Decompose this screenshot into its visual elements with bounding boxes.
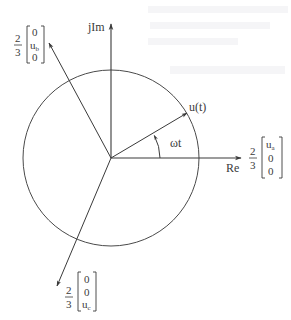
imaginary-axis-label: jIm: [87, 20, 105, 34]
fraction-numerator: 2: [66, 284, 72, 296]
vector-a-label: 2 3 ua 0 0: [249, 137, 282, 178]
fraction-numerator: 2: [250, 145, 256, 157]
angle-arc: [154, 136, 160, 159]
fraction-denominator: 3: [250, 159, 256, 171]
left-bracket: [78, 272, 81, 311]
svg-text:0: 0: [84, 273, 90, 285]
real-axis-label: Re: [226, 161, 239, 175]
angle-label: ωt: [170, 136, 182, 150]
fraction-denominator: 3: [66, 298, 72, 310]
page-bleed-through: [148, 6, 288, 74]
svg-text:uc: uc: [82, 298, 91, 312]
svg-text:0: 0: [268, 165, 274, 177]
u-t-label: u(t): [189, 100, 206, 114]
u-b-vector: [49, 43, 111, 158]
fraction-denominator: 3: [15, 46, 21, 58]
right-bracket: [93, 272, 96, 311]
right-bracket: [279, 137, 282, 178]
svg-text:0: 0: [268, 152, 274, 164]
u-c-vector: [57, 158, 111, 286]
left-bracket: [262, 137, 265, 178]
vector-c-label: 2 3 0 0 uc: [65, 272, 96, 312]
fraction-numerator: 2: [15, 32, 21, 44]
right-bracket: [41, 26, 44, 63]
phasor-diagram: ωt jIm Re u(t) 2 3 ua 0 0 2 3 0 ub 0 2 3…: [0, 0, 291, 320]
svg-text:0: 0: [32, 26, 38, 38]
svg-text:ua: ua: [266, 138, 276, 152]
svg-text:0: 0: [84, 286, 90, 298]
vector-b-label: 2 3 0 ub 0: [14, 26, 44, 63]
svg-text:0: 0: [32, 51, 38, 63]
